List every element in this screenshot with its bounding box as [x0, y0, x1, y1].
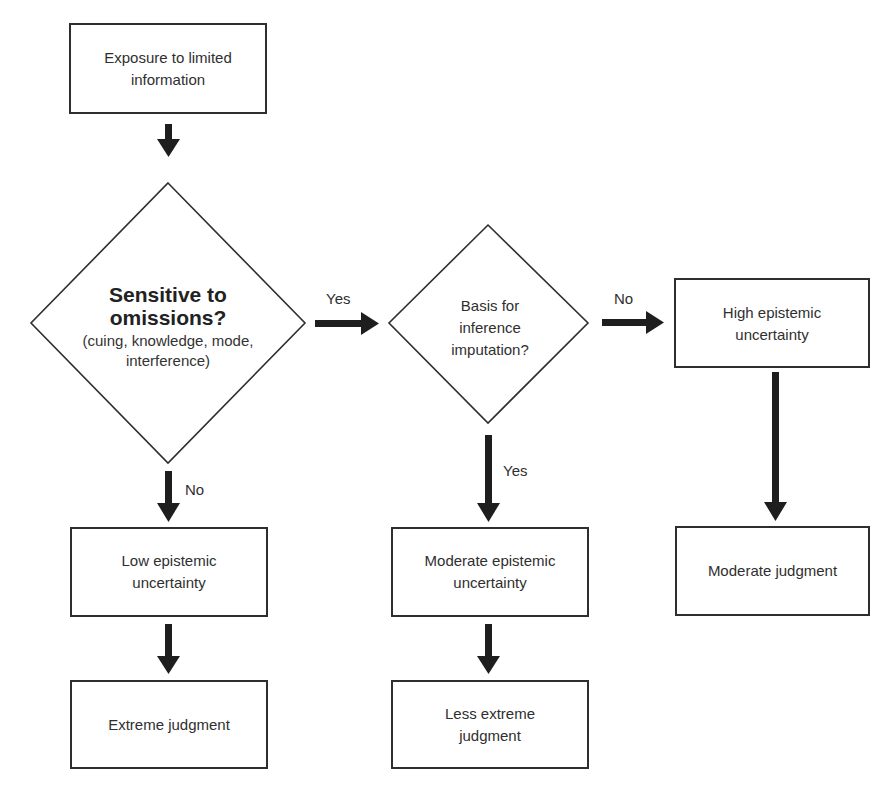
- arrow-down-icon: [157, 624, 180, 674]
- arrow-down-icon: [477, 624, 500, 674]
- edge-label-sensitive-no: No: [185, 481, 204, 499]
- arrow-down-icon: [157, 124, 180, 157]
- arrow-down-icon: [477, 435, 500, 522]
- node-moderate-uncertainty: Moderate epistemic uncertainty: [391, 527, 589, 617]
- node-low-uncertainty: Low epistemic uncertainty: [70, 527, 268, 617]
- node-high-uncertainty: High epistemic uncertainty: [674, 278, 870, 368]
- node-high-uncertainty-label: High epistemic uncertainty: [707, 302, 837, 346]
- arrow-right-icon: [315, 312, 379, 335]
- node-extreme-judgment-label: Extreme judgment: [108, 714, 230, 736]
- node-moderate-judgment: Moderate judgment: [675, 526, 870, 616]
- arrow-down-icon: [764, 372, 787, 521]
- node-moderate-judgment-label: Moderate judgment: [708, 560, 837, 582]
- node-sensitive-sublabel: (cuing, knowledge, mode, interference): [78, 331, 258, 371]
- edge-label-sensitive-yes: Yes: [326, 290, 350, 308]
- arrow-down-icon: [157, 471, 180, 522]
- edge-label-basis-no: No: [614, 290, 633, 308]
- node-less-extreme-judgment: Less extreme judgment: [391, 680, 589, 769]
- arrow-right-icon: [602, 311, 664, 334]
- node-extreme-judgment: Extreme judgment: [70, 680, 268, 769]
- edge-label-basis-yes: Yes: [503, 462, 527, 480]
- node-low-uncertainty-label: Low epistemic uncertainty: [104, 550, 234, 594]
- node-exposure-label: Exposure to limited information: [93, 47, 243, 91]
- node-sensitive: Sensitive to omissions? (cuing, knowledg…: [78, 283, 258, 371]
- node-basis-label: Basis for inference imputation?: [451, 297, 529, 358]
- flowchart-canvas: Exposure to limited information Sensitiv…: [0, 0, 894, 799]
- node-sensitive-label: Sensitive to omissions?: [78, 283, 258, 329]
- node-less-extreme-judgment-label: Less extreme judgment: [430, 703, 550, 747]
- node-moderate-uncertainty-label: Moderate epistemic uncertainty: [405, 550, 575, 594]
- node-exposure: Exposure to limited information: [69, 23, 267, 114]
- node-basis: Basis for inference imputation?: [430, 295, 550, 361]
